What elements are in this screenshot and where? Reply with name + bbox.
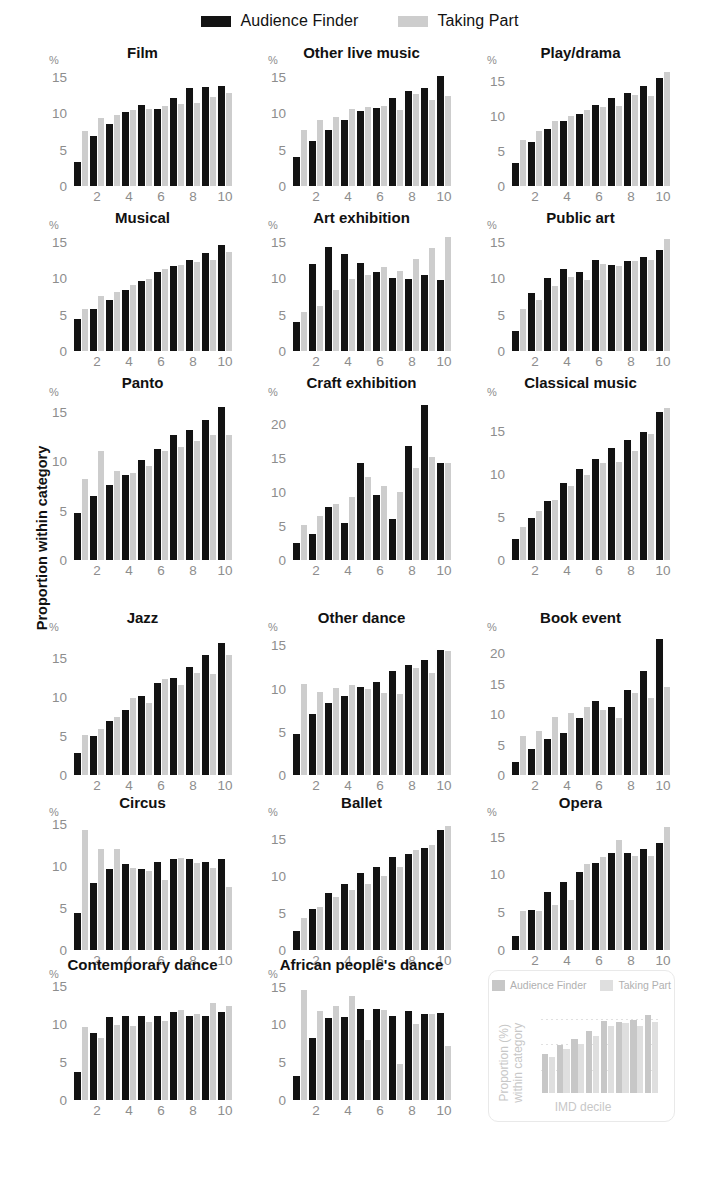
- bar-group: [308, 820, 324, 950]
- bar-group: [372, 635, 388, 775]
- bar-audience-finder: [357, 687, 363, 775]
- bar-audience-finder: [202, 87, 208, 186]
- bar-taking-part: [552, 500, 558, 560]
- y-axis-percent-symbol: %: [268, 386, 278, 398]
- bar-group: [201, 68, 217, 186]
- bar-group: [73, 68, 89, 186]
- bar-taking-part: [317, 1011, 323, 1100]
- bar-taking-part: [616, 266, 622, 351]
- bar-taking-part: [114, 717, 120, 775]
- legend-swatch-taking-part: [398, 16, 428, 27]
- bar-taking-part: [349, 279, 355, 351]
- bar-taking-part: [520, 140, 526, 186]
- bar-audience-finder: [122, 475, 128, 560]
- bar-audience-finder: [170, 1012, 176, 1100]
- bar-taking-part: [178, 265, 184, 351]
- bar-group: [153, 233, 169, 351]
- bar-group: [388, 820, 404, 950]
- bar-audience-finder: [170, 266, 176, 351]
- bar-group: [527, 68, 543, 186]
- bar-audience-finder: [528, 518, 534, 560]
- bar-group: [169, 635, 185, 775]
- bar-audience-finder: [373, 867, 379, 950]
- key-panel-bar-audience-finder: [616, 1022, 622, 1093]
- bar-audience-finder: [293, 734, 299, 775]
- bar-audience-finder: [90, 1033, 96, 1100]
- bar-taking-part: [162, 451, 168, 560]
- bar-group: [527, 820, 543, 950]
- bar-group: [121, 400, 137, 560]
- bar-group: [623, 635, 639, 775]
- bar-group: [511, 635, 527, 775]
- x-axis-tick-label: 2: [531, 778, 539, 793]
- bar-taking-part: [210, 260, 216, 351]
- bar-taking-part: [130, 110, 136, 186]
- x-axis-tick-label: 2: [312, 354, 320, 369]
- bar-audience-finder: [592, 459, 598, 560]
- bar-group: [607, 635, 623, 775]
- bar-taking-part: [210, 97, 216, 186]
- bar-taking-part: [600, 107, 606, 186]
- bar-audience-finder: [106, 124, 112, 186]
- bar-taking-part: [568, 900, 574, 950]
- bar-audience-finder: [576, 114, 582, 186]
- bar-taking-part: [445, 96, 451, 186]
- bar-group: [340, 233, 356, 351]
- bar-taking-part: [349, 497, 355, 560]
- x-axis-tick-label: 2: [531, 953, 539, 968]
- bar-taking-part: [397, 694, 403, 775]
- bar-taking-part: [520, 309, 526, 351]
- bar-group: [73, 233, 89, 351]
- bar-taking-part: [226, 887, 232, 950]
- key-panel-bar-taking-part: [637, 1026, 643, 1094]
- key-panel-bar-taking-part: [549, 1057, 555, 1093]
- bar-taking-part: [632, 856, 638, 950]
- bar-group: [420, 233, 436, 351]
- y-axis-percent-symbol: %: [487, 219, 497, 231]
- bar-group: [217, 233, 233, 351]
- plot-area: [292, 400, 452, 560]
- bar-group: [607, 68, 623, 186]
- y-axis-tick-label: 10: [40, 106, 67, 121]
- y-axis-tick-label: 5: [259, 906, 286, 921]
- x-axis-tick-label: 6: [157, 778, 165, 793]
- x-axis-tick-label: 10: [217, 189, 232, 204]
- bar-group: [201, 400, 217, 560]
- x-axis-tick-label: 6: [376, 563, 384, 578]
- bar-taking-part: [114, 849, 120, 950]
- bar-audience-finder: [202, 1016, 208, 1101]
- bar-taking-part: [365, 689, 371, 775]
- bar-taking-part: [429, 1014, 435, 1100]
- legend-label-audience-finder: Audience Finder: [240, 12, 358, 30]
- key-panel: Audience Finder Taking Part Proportion (…: [488, 970, 675, 1122]
- bar-group: [185, 400, 201, 560]
- bar-group: [308, 233, 324, 351]
- bar-group: [217, 635, 233, 775]
- bar-audience-finder: [512, 539, 518, 561]
- bar-group: [404, 233, 420, 351]
- bar-group: [420, 635, 436, 775]
- bar-group: [217, 982, 233, 1100]
- bar-audience-finder: [624, 853, 630, 951]
- x-axis-tick-label: 10: [655, 354, 670, 369]
- bar-audience-finder: [293, 1076, 299, 1100]
- bar-audience-finder: [138, 460, 144, 560]
- key-panel-bar-audience-finder: [601, 1021, 607, 1093]
- key-swatch-taking-part: [600, 980, 613, 991]
- bar-group: [543, 635, 559, 775]
- bar-group: [292, 400, 308, 560]
- bar-group: [559, 400, 575, 560]
- bar-group: [121, 68, 137, 186]
- bar-audience-finder: [624, 93, 630, 186]
- bar-group: [436, 233, 452, 351]
- bar-group: [436, 400, 452, 560]
- bar-taking-part: [600, 857, 606, 950]
- bar-taking-part: [381, 106, 387, 186]
- bar-taking-part: [130, 473, 136, 560]
- bar-group: [527, 233, 543, 351]
- y-axis-tick-label: 5: [259, 518, 286, 533]
- y-axis-percent-symbol: %: [268, 54, 278, 66]
- y-axis-tick-label: 5: [259, 142, 286, 157]
- chart-title: Circus: [40, 794, 245, 811]
- bar-audience-finder: [122, 710, 128, 775]
